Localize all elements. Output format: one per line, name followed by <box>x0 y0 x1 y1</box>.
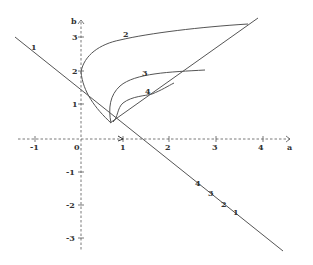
curve-label-4: 4 <box>145 86 151 96</box>
curve-label-1: 1 <box>31 42 37 52</box>
line-label-4: 4 <box>195 178 201 188</box>
line-label-2: 2 <box>221 199 227 209</box>
curve-2-upper <box>81 24 248 72</box>
line-label-3: 3 <box>208 188 214 198</box>
x-tick-label: 3 <box>212 142 218 152</box>
y-tick-label: 2 <box>72 66 78 76</box>
y-tick-label: -2 <box>66 200 75 210</box>
curve-3 <box>110 70 205 123</box>
x-tick-label: 2 <box>165 142 171 152</box>
intersection-marker-icon <box>118 136 123 141</box>
x-tick-label: -1 <box>30 142 39 152</box>
curve-label-3: 3 <box>142 68 148 78</box>
y-tick-label: 3 <box>72 32 78 42</box>
x-tick-label: 4 <box>258 142 264 152</box>
curve-label-2: 2 <box>123 29 129 39</box>
x-tick-label: 1 <box>120 142 126 152</box>
curve-2-lower <box>81 72 111 123</box>
y-tick-label: -1 <box>66 167 75 177</box>
y-tick-label: 1 <box>72 99 78 109</box>
envelope-line <box>110 18 258 123</box>
origin-label: 0 <box>74 142 80 152</box>
y-tick-label: -3 <box>66 233 75 243</box>
phase-diagram: -1 0 1 2 3 4 a b 3 2 1 -1 -2 -3 1 2 3 4 … <box>0 0 313 265</box>
a-axis-label: a <box>287 142 292 152</box>
curve-4 <box>113 83 174 122</box>
b-axis-label: b <box>71 16 77 26</box>
line-label-1: 1 <box>233 207 239 217</box>
line-1 <box>15 37 283 251</box>
